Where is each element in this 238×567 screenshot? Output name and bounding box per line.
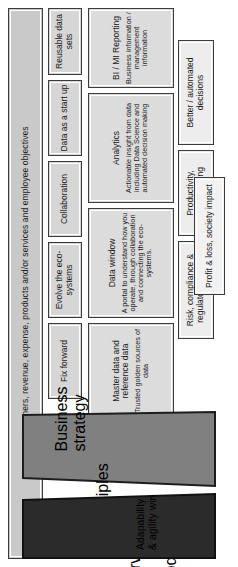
layer-label-band: Business strategy Principles Services & … <box>21 410 217 488</box>
footer-band-label: Adapability & agility win <box>113 494 179 550</box>
row-label-business-strategy: Business strategy <box>43 396 99 442</box>
footer-band: Adapability & agility win <box>21 492 217 560</box>
